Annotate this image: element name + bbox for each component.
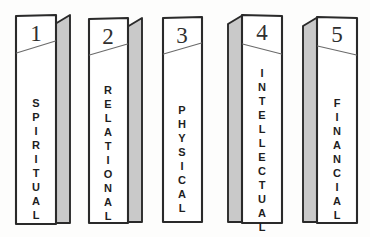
diagram-canvas: 1 S P I R I T U A L 2 R E L A: [0, 0, 370, 237]
pillar-5: 5 F I N A N C I A L: [303, 17, 357, 223]
pillar-4-letter: E: [258, 151, 265, 163]
pillar-2-letter: A: [104, 126, 112, 138]
pillar-3: 3 P H Y S I C A L: [163, 17, 202, 222]
pillar-4-number: 4: [256, 20, 268, 45]
pillar-1-letter: L: [33, 209, 40, 221]
pillar-4-letter: T: [259, 95, 266, 107]
pillar-5-letter: A: [333, 139, 341, 151]
pillar-5-letter: N: [333, 153, 341, 165]
pillar-3-letter: A: [178, 188, 186, 200]
pillar-2-letter: A: [104, 196, 112, 208]
pillar-4-letter: L: [259, 123, 266, 135]
pillar-3-letter: P: [178, 104, 185, 116]
pillar-4-letter: N: [258, 81, 266, 93]
pillar-4-letter: U: [258, 193, 266, 205]
pillar-2-letter: N: [104, 182, 112, 194]
pillar-4: 4 I N T E L L E C T U A L: [228, 15, 282, 233]
pillar-4-letter: A: [258, 207, 266, 219]
pillar-1-letter: I: [34, 125, 37, 137]
pillar-4-letter: C: [258, 165, 266, 177]
pillar-1-letter: S: [32, 97, 39, 109]
pillar-2-letter: E: [104, 98, 111, 110]
pillar-5-side-face: [303, 17, 318, 222]
pillar-5-letter: I: [335, 181, 338, 193]
pillar-5-letter: L: [334, 209, 341, 221]
pillar-1-letter: I: [34, 153, 37, 165]
pillar-1: 1 S P I R I T U A L: [16, 15, 70, 224]
pillar-3-letter: L: [179, 202, 186, 214]
pillar-3-letter: H: [178, 118, 186, 130]
pillar-2-letter: R: [104, 84, 112, 96]
pillar-4-letter: L: [259, 137, 266, 149]
pillar-5-letter: N: [333, 125, 341, 137]
pillar-1-side-face: [55, 15, 70, 223]
pillar-1-letter: U: [32, 181, 40, 193]
pillar-1-letter: A: [32, 195, 40, 207]
pillar-1-letter: T: [33, 167, 40, 179]
pillar-3-letter: Y: [178, 132, 186, 144]
pillar-2-letter: I: [106, 154, 109, 166]
pillar-5-letter: A: [333, 195, 341, 207]
pillar-1-letter: P: [32, 111, 39, 123]
pillar-2: 2 R E L A T I O N A L: [89, 18, 142, 223]
pillar-2-letter: O: [104, 168, 113, 180]
pillar-1-letter: R: [32, 139, 40, 151]
pillar-5-letter: I: [335, 111, 338, 123]
pillar-3-letter: S: [178, 146, 185, 158]
pillar-3-letter: C: [178, 174, 186, 186]
pillar-4-letter: T: [259, 179, 266, 191]
pillar-5-letter: F: [334, 97, 341, 109]
pillar-1-number: 1: [30, 21, 42, 46]
pillar-5-letter: C: [333, 167, 341, 179]
pillar-5-number: 5: [331, 22, 343, 47]
pillar-3-number: 3: [176, 23, 188, 48]
pillar-4-letter: I: [260, 67, 263, 79]
pillar-4-side-face: [228, 15, 243, 222]
pillar-2-side-face: [127, 18, 142, 222]
pillar-4-letter: E: [258, 109, 265, 121]
pillar-4-letter: L: [259, 221, 266, 233]
pillar-2-number: 2: [102, 24, 114, 49]
pillar-2-letter: L: [105, 210, 112, 222]
pillar-2-letter: T: [105, 140, 112, 152]
five-pillars-diagram: 1 S P I R I T U A L 2 R E L A: [0, 0, 370, 237]
pillar-3-letter: I: [180, 160, 183, 172]
pillar-2-letter: L: [105, 112, 112, 124]
